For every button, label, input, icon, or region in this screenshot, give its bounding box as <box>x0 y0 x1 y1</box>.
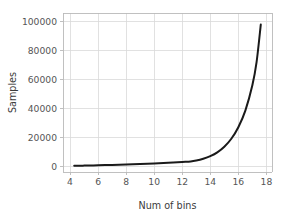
y-tick-label: 80000 <box>28 45 57 56</box>
x-tick-label: 16 <box>232 176 244 187</box>
x-tick-label: 18 <box>261 176 273 187</box>
y-tick-label: 0 <box>51 161 57 172</box>
x-tick-label: 6 <box>95 176 101 187</box>
x-tick-label: 10 <box>148 176 160 187</box>
x-tick-label: 8 <box>123 176 129 187</box>
x-axis-title: Num of bins <box>139 200 197 211</box>
samples-vs-bins-line-chart: 4681012141618 02000040000600008000010000… <box>0 0 292 215</box>
chart-figure: 4681012141618 02000040000600008000010000… <box>0 0 292 215</box>
x-tick-label: 14 <box>204 176 216 187</box>
plot-area-background <box>63 13 272 172</box>
y-tick-label: 60000 <box>28 74 57 85</box>
y-tick-label: 40000 <box>28 103 57 114</box>
y-tick-label: 20000 <box>28 132 57 143</box>
y-tick-label: 100000 <box>22 16 57 27</box>
x-tick-label: 4 <box>67 176 73 187</box>
x-tick-label: 12 <box>176 176 188 187</box>
y-axis-title: Samples <box>7 72 18 113</box>
